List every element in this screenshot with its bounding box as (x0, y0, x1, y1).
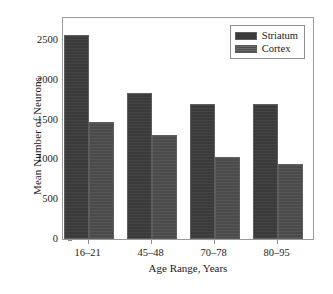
y-tick-label: 500 (14, 194, 58, 204)
legend-swatch-cortex (235, 45, 257, 53)
legend-item-cortex: Cortex (235, 42, 298, 55)
bar-cortex-0 (89, 122, 114, 239)
x-tick-mark (88, 240, 89, 244)
x-tick-mark (214, 240, 215, 244)
y-tick-label: 2500 (14, 35, 58, 45)
x-axis-title: Age Range, Years (62, 262, 314, 274)
y-axis-tick-labels: 05001000150020002500 (10, 0, 58, 294)
x-tick-label: 70–78 (200, 247, 226, 258)
y-tick-label: 1000 (14, 154, 58, 164)
x-tick-label: 80–95 (263, 247, 289, 258)
bar-striatum-0 (64, 35, 89, 239)
bar-cortex-1 (152, 135, 177, 239)
bar-striatum-2 (190, 104, 215, 239)
bar-striatum-3 (253, 104, 278, 239)
legend-swatch-striatum (235, 32, 257, 40)
x-tick-mark (151, 240, 152, 244)
bar-cortex-2 (215, 157, 240, 239)
x-axis-tick-labels: 16–2145–4870–7880–95 (62, 240, 314, 260)
chart-legend: Striatum Cortex (230, 25, 305, 59)
y-tick-label: 1500 (14, 115, 58, 125)
plot-area: Striatum Cortex (62, 17, 314, 240)
legend-item-striatum: Striatum (235, 29, 298, 42)
bar-chart-figure: Mean Number of Neurons 05001000150020002… (0, 0, 333, 294)
y-tick-label: 0 (14, 234, 58, 244)
bar-cortex-3 (278, 164, 303, 239)
x-tick-label: 16–21 (74, 247, 100, 258)
bar-group (64, 18, 114, 239)
legend-label-cortex: Cortex (262, 43, 291, 54)
y-tick-label: 2000 (14, 75, 58, 85)
x-tick-mark (277, 240, 278, 244)
x-tick-label: 45–48 (137, 247, 163, 258)
bar-group (127, 18, 177, 239)
bar-striatum-1 (127, 93, 152, 239)
legend-label-striatum: Striatum (262, 30, 298, 41)
